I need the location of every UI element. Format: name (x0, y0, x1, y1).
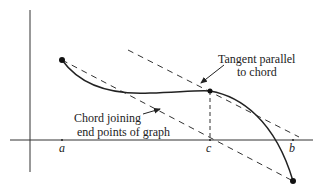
label-b: b (289, 141, 295, 155)
label-c: c (206, 141, 212, 155)
tangent-annotation-arrow (201, 65, 224, 83)
chord-label-line1: Chord joining (74, 111, 141, 125)
start-point (59, 57, 65, 63)
tangent-label-line1: Tangent parallel (218, 52, 296, 66)
tangent-point (208, 89, 213, 94)
label-a: a (59, 141, 65, 155)
mean-value-theorem-diagram: Tangent parallel to chord Chord joining … (0, 0, 323, 193)
chord-label-line2: end points of graph (77, 125, 170, 139)
end-point (290, 178, 296, 184)
chord-annotation-arrow (143, 109, 160, 114)
tangent-label-line2: to chord (237, 65, 277, 79)
